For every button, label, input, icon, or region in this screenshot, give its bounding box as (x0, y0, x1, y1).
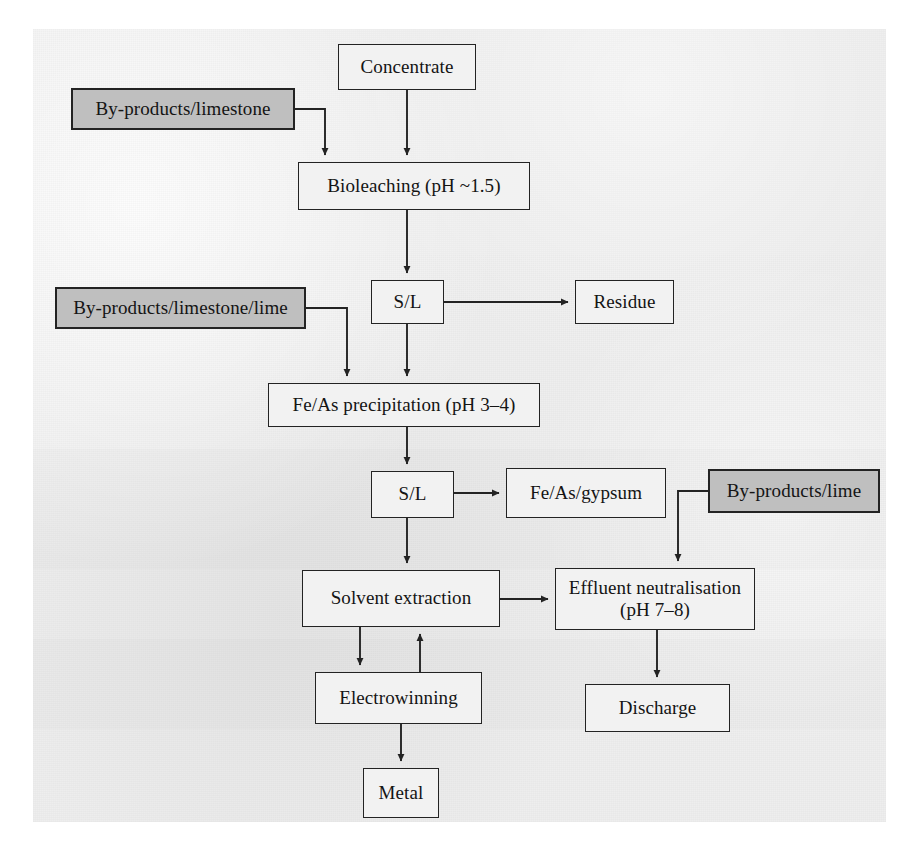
node-label-metal: Metal (379, 782, 424, 804)
node-label-bioleaching: Bioleaching (pH ~1.5) (327, 175, 500, 197)
node-bioleaching: Bioleaching (pH ~1.5) (298, 162, 530, 210)
figure-canvas: ConcentrateBy-products/limestoneBioleach… (0, 0, 917, 856)
node-label-byproducts-lime-stone-lime: By-products/limestone/lime (73, 297, 288, 319)
node-label-byproducts-lime: By-products/lime (727, 480, 862, 502)
node-feas-gypsum: Fe/As/gypsum (506, 468, 666, 518)
node-label-solvent-extraction: Solvent extraction (331, 587, 472, 609)
node-sl-1: S/L (371, 280, 444, 324)
node-concentrate: Concentrate (338, 44, 476, 90)
node-byproducts-lime: By-products/lime (708, 469, 880, 513)
node-metal: Metal (363, 768, 439, 818)
node-label-byproducts-limestone: By-products/limestone (95, 98, 270, 120)
node-label-sl-2: S/L (399, 483, 427, 505)
node-label-sl-1: S/L (394, 291, 422, 313)
node-residue: Residue (575, 280, 674, 324)
node-solvent-extraction: Solvent extraction (302, 570, 500, 627)
node-sl-2: S/L (371, 471, 454, 518)
node-label-effluent-neutralisation: Effluent neutralisation(pH 7–8) (569, 577, 741, 622)
node-byproducts-lime-stone-lime: By-products/limestone/lime (55, 287, 306, 329)
node-label-discharge: Discharge (619, 697, 697, 719)
node-discharge: Discharge (585, 684, 730, 732)
node-label-concentrate: Concentrate (361, 56, 454, 78)
node-label-feas-precipitation: Fe/As precipitation (pH 3–4) (293, 394, 516, 416)
node-electrowinning: Electrowinning (315, 672, 482, 724)
node-byproducts-limestone: By-products/limestone (71, 88, 295, 130)
node-label-feas-gypsum: Fe/As/gypsum (530, 482, 642, 504)
node-label-residue: Residue (594, 291, 656, 313)
node-effluent-neutralisation: Effluent neutralisation(pH 7–8) (555, 568, 755, 630)
node-feas-precipitation: Fe/As precipitation (pH 3–4) (268, 383, 540, 427)
node-label-electrowinning: Electrowinning (339, 687, 458, 709)
